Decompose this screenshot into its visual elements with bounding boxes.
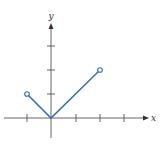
- open-endpoint-left: [25, 92, 30, 97]
- y-axis-arrow-icon: [49, 23, 54, 29]
- y-axis-label: y: [48, 11, 55, 21]
- x-axis-label: x: [151, 113, 156, 123]
- x-axis-arrow-icon: [143, 116, 149, 121]
- abs-value-line: [27, 70, 100, 118]
- open-endpoint-right: [98, 68, 103, 73]
- function-graph: x y: [0, 0, 167, 144]
